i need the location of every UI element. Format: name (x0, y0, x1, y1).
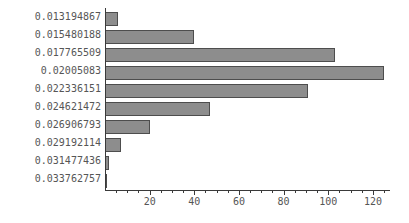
x-axis-minor-tick (183, 191, 184, 193)
y-axis-tick-label: 0.029192114 (35, 134, 101, 152)
x-axis-minor-tick (339, 191, 340, 193)
x-axis-minor-tick (205, 191, 206, 193)
bar (105, 48, 335, 62)
x-axis-major-tick (150, 191, 151, 195)
y-axis-tick-label: 0.024621472 (35, 98, 101, 116)
x-axis-minor-tick (295, 191, 296, 193)
bar (105, 30, 194, 44)
bar (105, 12, 118, 26)
x-axis-minor-tick (351, 191, 352, 193)
x-axis-minor-tick (138, 191, 139, 193)
y-axis-tick-label: 0.02005083 (41, 62, 101, 80)
bar (105, 102, 210, 116)
x-axis-minor-tick (362, 191, 363, 193)
x-axis-tick-label: 40 (188, 196, 200, 207)
plot-area (105, 8, 391, 190)
y-axis-tick-label: 0.033762757 (35, 170, 101, 188)
x-axis-minor-tick (317, 191, 318, 193)
bar (105, 66, 384, 80)
x-axis-major-tick (194, 191, 195, 195)
x-axis-minor-tick (306, 191, 307, 193)
histogram-chart: 0.0131948670.0154801880.0177655090.02005… (0, 0, 409, 223)
bar (105, 84, 308, 98)
y-axis-tick-label: 0.031477436 (35, 152, 101, 170)
bar (105, 138, 121, 152)
x-axis-tick-label: 60 (233, 196, 245, 207)
x-axis-minor-tick (161, 191, 162, 193)
y-axis-category-labels: 0.0131948670.0154801880.0177655090.02005… (0, 8, 101, 190)
x-axis-minor-tick (250, 191, 251, 193)
y-axis-tick-label: 0.017765509 (35, 44, 101, 62)
x-axis-line (105, 190, 390, 191)
y-axis-tick-label: 0.022336151 (35, 80, 101, 98)
bar (105, 120, 150, 134)
x-axis-minor-tick (172, 191, 173, 193)
x-axis-minor-tick (261, 191, 262, 193)
x-axis-minor-tick (217, 191, 218, 193)
x-axis-major-tick (284, 191, 285, 195)
x-axis-minor-tick (116, 191, 117, 193)
y-axis-line (105, 8, 106, 191)
x-axis-major-tick (239, 191, 240, 195)
x-axis-minor-tick (228, 191, 229, 193)
y-axis-tick-label: 0.013194867 (35, 8, 101, 26)
x-axis-minor-tick (127, 191, 128, 193)
x-axis-minor-tick (384, 191, 385, 193)
x-axis-tick-label: 20 (144, 196, 156, 207)
x-axis-major-tick (373, 191, 374, 195)
x-axis-tick-label: 120 (364, 196, 382, 207)
x-axis-tick-label: 100 (319, 196, 337, 207)
y-axis-tick-label: 0.015480188 (35, 26, 101, 44)
x-axis-major-tick (328, 191, 329, 195)
x-axis-tick-label: 80 (278, 196, 290, 207)
x-axis-minor-tick (272, 191, 273, 193)
y-axis-tick-label: 0.026906793 (35, 116, 101, 134)
